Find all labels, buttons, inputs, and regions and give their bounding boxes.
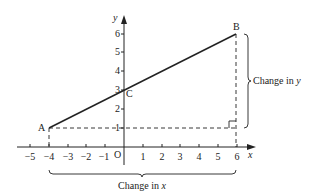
change-in-x-var: x — [160, 180, 166, 191]
line-AB — [49, 34, 236, 128]
change-in-y-brace-icon — [244, 34, 251, 128]
x-tick-label: 2 — [160, 151, 165, 162]
x-tick-label: −1 — [99, 151, 110, 162]
dashed-guides — [49, 34, 236, 147]
y-tick-label: 6 — [115, 28, 120, 39]
y-tick-label: 5 — [115, 46, 120, 57]
change-in-x-brace-icon — [49, 170, 236, 177]
change-in-y-label: Change in y — [253, 75, 301, 86]
x-tick-label: 3 — [178, 151, 183, 162]
x-tick-label: −4 — [44, 151, 55, 162]
coordinate-diagram: −5 −4 −3 −2 −1 1 2 3 4 5 6 1 2 3 4 5 6 y… — [0, 0, 321, 195]
x-axis-tick-labels: −5 −4 −3 −2 −1 1 2 3 4 5 6 — [25, 151, 240, 162]
x-tick-label: −5 — [25, 151, 36, 162]
x-axis-label: x — [247, 149, 253, 160]
y-tick-label: 4 — [115, 65, 120, 76]
y-axis-tick-labels: 1 2 3 4 5 6 — [115, 28, 120, 133]
y-axis-label: y — [112, 12, 118, 23]
change-in-y-prefix: Change in — [253, 75, 296, 86]
point-A-label: A — [38, 122, 46, 133]
change-in-y-var: y — [295, 75, 301, 86]
x-tick-label: 5 — [216, 151, 221, 162]
x-tick-label: 6 — [235, 151, 240, 162]
x-tick-label: −3 — [63, 151, 74, 162]
change-in-x-label: Change in x — [118, 180, 166, 191]
right-angle-marker-icon — [229, 121, 236, 128]
y-tick-label: 1 — [115, 122, 120, 133]
point-B-label: B — [233, 21, 240, 32]
point-C-label: C — [126, 88, 133, 99]
y-tick-label: 2 — [115, 103, 120, 114]
y-axis-arrow-icon — [121, 15, 127, 24]
origin-label: O — [114, 149, 121, 160]
x-tick-label: 1 — [141, 151, 146, 162]
change-in-x-prefix: Change in — [118, 180, 161, 191]
x-tick-label: −2 — [81, 151, 92, 162]
x-tick-label: 4 — [197, 151, 202, 162]
